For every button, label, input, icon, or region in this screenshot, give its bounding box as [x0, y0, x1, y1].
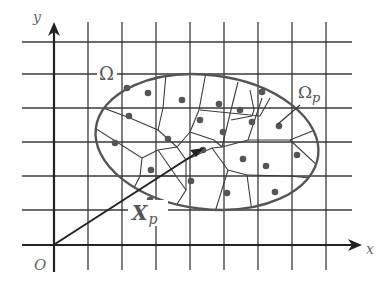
cell-edge: [158, 150, 186, 190]
cell-label-subscript: p: [312, 90, 321, 105]
material-point: [220, 129, 227, 136]
material-point: [263, 163, 270, 170]
cell-edge: [231, 116, 252, 120]
axes: [22, 22, 362, 272]
material-point: [179, 97, 186, 104]
material-point: [112, 140, 119, 147]
cell-edge: [90, 125, 142, 196]
cell-edge: [250, 90, 254, 116]
material-point: [216, 101, 223, 108]
voronoi-cells: [90, 72, 330, 215]
y-axis-label: y: [32, 9, 42, 25]
vector-label-subscript: p: [149, 211, 158, 227]
position-vector: [55, 152, 198, 244]
material-point: [197, 117, 204, 124]
material-point: [224, 190, 231, 197]
material-point: [249, 119, 256, 126]
voronoi-domain-diagram: Ω Ωp Xp y x O: [0, 0, 376, 287]
cell-edge: [248, 124, 330, 140]
material-point: [237, 107, 244, 114]
cell-edge: [190, 132, 222, 147]
material-point: [165, 136, 172, 143]
domain-label: Ω: [99, 63, 114, 84]
material-point: [240, 156, 247, 163]
material-points: [112, 85, 301, 204]
cell-label-symbol: Ω: [298, 82, 312, 102]
material-point: [145, 90, 152, 97]
material-point: [259, 89, 266, 96]
origin-label: O: [34, 256, 46, 274]
x-axis-label: x: [366, 241, 374, 257]
material-point: [272, 189, 279, 196]
cell-label: Ωp: [298, 82, 321, 105]
vector-label-symbol: X: [130, 201, 149, 225]
cell-edge: [158, 74, 166, 130]
material-point: [294, 152, 301, 159]
material-point: [126, 113, 133, 120]
material-point: [188, 178, 195, 185]
material-point: [148, 167, 155, 174]
material-point: [124, 85, 131, 92]
